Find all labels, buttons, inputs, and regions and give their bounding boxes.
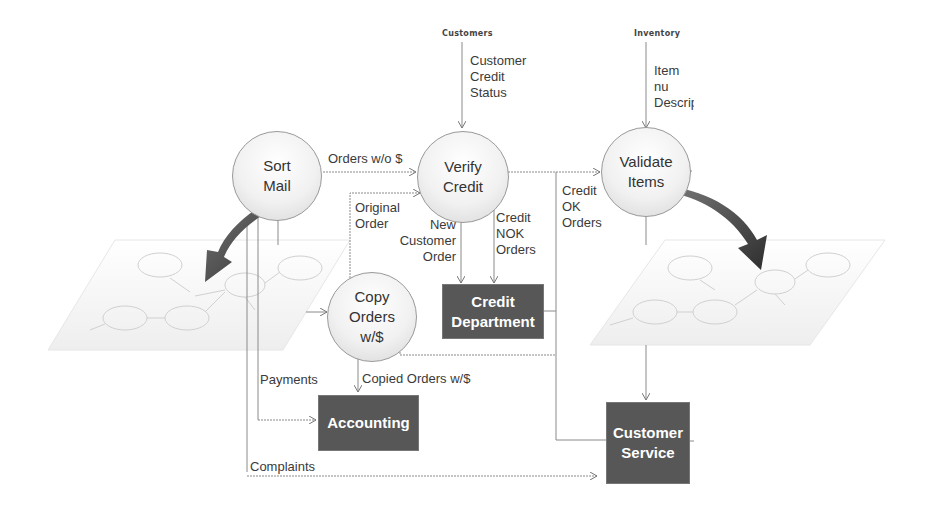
flow-orders-without-money: Orders w/o $ — [328, 151, 402, 167]
process-copy-orders[interactable]: Copy Orders w/$ — [327, 272, 417, 362]
flow-lines — [0, 0, 926, 505]
flow-item-number-description: Item nu Descrip — [654, 63, 694, 111]
process-verify-credit[interactable]: Verify Credit — [417, 131, 509, 223]
flow-credit-ok-orders: Credit OK Orders — [562, 183, 602, 231]
flow-copied-orders: Copied Orders w/$ — [362, 371, 470, 387]
source-inventory: Inventory — [634, 26, 680, 42]
entity-accounting[interactable]: Accounting — [318, 395, 419, 451]
flow-payments: Payments — [260, 372, 318, 388]
entity-customer-service[interactable]: Customer Service — [606, 402, 690, 484]
flow-credit-nok-orders: Credit NOK Orders — [496, 210, 536, 258]
flow-new-customer-order: New Customer Order — [396, 217, 456, 265]
left-subdiagram-plane — [48, 240, 350, 350]
flow-complaints: Complaints — [250, 459, 315, 475]
entity-credit-department[interactable]: Credit Department — [442, 284, 544, 339]
process-sort-mail[interactable]: Sort Mail — [232, 131, 322, 221]
source-customers: Customers — [442, 26, 493, 42]
flow-original-order: Original Order — [355, 200, 400, 232]
process-validate-items[interactable]: Validate Items — [601, 127, 691, 217]
right-subdiagram-plane — [590, 240, 885, 345]
flow-customer-credit-status: Customer Credit Status — [470, 53, 526, 101]
